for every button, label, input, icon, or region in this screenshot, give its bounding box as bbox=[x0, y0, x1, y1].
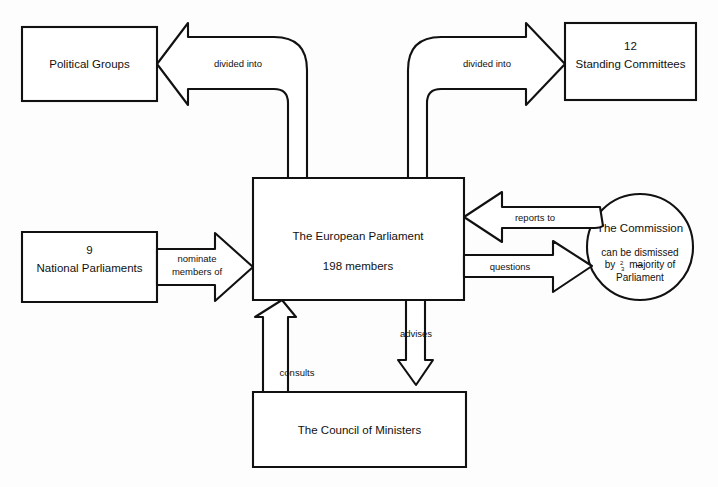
node-national-parliaments: 9 National Parliaments bbox=[22, 232, 157, 302]
commission-note-line3: Parliament bbox=[616, 272, 664, 283]
nominate-label-line2: members of bbox=[172, 266, 223, 277]
edge-questions: questions bbox=[464, 241, 592, 292]
questions-label: questions bbox=[490, 261, 531, 272]
edge-nominate-members-of: nominate members of bbox=[157, 233, 253, 301]
node-commission: The Commission can be dismissed by 2 3 m… bbox=[587, 194, 693, 300]
standing-committees-count: 12 bbox=[624, 40, 637, 52]
commission-note-majority: majority of bbox=[629, 259, 675, 270]
european-parliament-label: The European Parliament bbox=[292, 230, 424, 242]
consults-arrow bbox=[255, 300, 296, 392]
commission-note-by: by bbox=[605, 259, 616, 270]
consults-label: consults bbox=[280, 367, 315, 378]
edge-advises: advises bbox=[398, 300, 433, 385]
national-parliaments-count: 9 bbox=[86, 244, 92, 256]
advises-label: advises bbox=[400, 328, 432, 339]
node-political-groups: Political Groups bbox=[22, 27, 157, 101]
divided-into-right-label: divided into bbox=[463, 58, 511, 69]
political-groups-label: Political Groups bbox=[49, 58, 130, 70]
national-parliaments-label: National Parliaments bbox=[36, 262, 142, 274]
edge-reports-to: reports to bbox=[464, 192, 603, 242]
edge-consults: consults bbox=[255, 300, 315, 392]
divided-into-left-arrow bbox=[157, 23, 307, 178]
commission-label: The Commission bbox=[597, 222, 683, 234]
council-of-ministers-label: The Council of Ministers bbox=[298, 424, 422, 436]
reports-to-label: reports to bbox=[515, 212, 555, 223]
divided-into-left-label: divided into bbox=[214, 58, 262, 69]
divided-into-right-arrow bbox=[408, 23, 565, 178]
institution-relationship-diagram: Political Groups 12 Standing Committees … bbox=[0, 0, 718, 487]
advises-arrow bbox=[398, 300, 433, 385]
european-parliament-members: 198 members bbox=[323, 260, 394, 272]
nominate-label-line1: nominate bbox=[177, 253, 216, 264]
edge-divided-into-political-groups: divided into bbox=[157, 23, 307, 178]
node-standing-committees: 12 Standing Committees bbox=[565, 23, 696, 100]
standing-committees-label: Standing Committees bbox=[576, 58, 686, 70]
edge-divided-into-standing-committees: divided into bbox=[408, 23, 565, 178]
commission-note-line1: can be dismissed bbox=[601, 247, 678, 258]
diagram-canvas: Political Groups 12 Standing Committees … bbox=[0, 0, 718, 487]
node-council-of-ministers: The Council of Ministers bbox=[253, 392, 466, 467]
node-european-parliament: The European Parliament 198 members bbox=[253, 178, 464, 300]
